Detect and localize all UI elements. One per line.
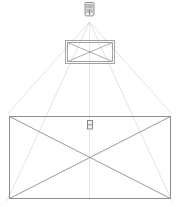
ray-right-inner <box>90 22 173 114</box>
projector-lens-band <box>86 4 93 8</box>
diagram-svg <box>0 0 179 207</box>
projector-icon <box>85 3 94 17</box>
projector-foot <box>86 15 93 17</box>
projection-rays <box>7 22 172 201</box>
ray-left-inner <box>8 22 90 114</box>
ray-left-outer <box>7 22 90 201</box>
ray-right-outer <box>90 22 173 201</box>
screen-device-icon <box>88 121 93 130</box>
projection-diagram: Projection geometry diagram A projector … <box>0 0 179 207</box>
